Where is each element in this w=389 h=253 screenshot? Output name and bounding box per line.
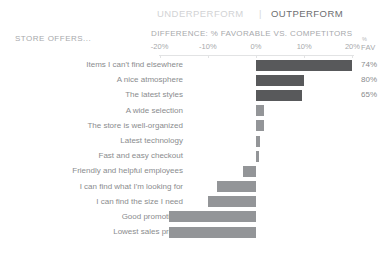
bar-negative[interactable] <box>208 196 256 207</box>
bar-positive[interactable] <box>256 75 304 86</box>
chart-row[interactable]: A wide selection <box>0 104 389 119</box>
chart-row[interactable]: Lowest sales prices <box>0 225 389 240</box>
bar-positive[interactable] <box>256 151 259 162</box>
category-label: The latest styles <box>125 90 183 99</box>
legend-underperform: UNDERPERFORM <box>157 8 244 19</box>
bar-positive[interactable] <box>256 105 264 116</box>
x-tick-1: -10% <box>199 42 217 51</box>
category-label: Latest technology <box>120 136 183 145</box>
x-tick-2: 0% <box>251 42 262 51</box>
x-axis-tick-labels: -20%-10%0%10%20% <box>0 42 389 53</box>
chart-row[interactable]: I can find the size I need <box>0 195 389 210</box>
category-label: The store is well-organized <box>87 121 183 130</box>
chart-row[interactable]: Latest technology <box>0 134 389 149</box>
chart-root: · · · · UNDERPERFORM | OUTPERFORM STORE … <box>0 0 389 253</box>
fav-value: 74% <box>361 60 377 69</box>
legend-outperform: OUTPERFORM <box>271 8 343 19</box>
performance-legend: UNDERPERFORM | OUTPERFORM <box>0 8 389 21</box>
bar-positive[interactable] <box>256 90 302 101</box>
bar-positive[interactable] <box>256 60 352 71</box>
chart-row[interactable]: I can find what I'm looking for <box>0 180 389 195</box>
chart-row[interactable]: The latest styles65% <box>0 88 389 103</box>
bar-negative[interactable] <box>243 166 256 177</box>
clipped-ghost-text: · · · · <box>148 0 166 3</box>
chart-row[interactable]: Good promotions <box>0 210 389 225</box>
bar-negative[interactable] <box>169 227 256 238</box>
x-tick-0: -20% <box>151 42 169 51</box>
category-label: A nice atmosphere <box>117 75 183 84</box>
bar-positive[interactable] <box>256 120 264 131</box>
x-tick-4: 20% <box>345 42 360 51</box>
fav-value: 80% <box>361 75 377 84</box>
category-label: Friendly and helpful employees <box>72 166 183 175</box>
chart-row[interactable]: The store is well-organized <box>0 119 389 134</box>
bar-positive[interactable] <box>256 136 260 147</box>
x-tick-3: 10% <box>297 42 312 51</box>
category-label: I can find what I'm looking for <box>80 182 183 191</box>
category-label: Fast and easy checkout <box>99 151 184 160</box>
bar-plot-area: Items I can't find elsewhere74%A nice at… <box>0 58 389 248</box>
legend-separator: | <box>259 8 261 19</box>
bar-negative[interactable] <box>217 181 256 192</box>
chart-row[interactable]: Fast and easy checkout <box>0 149 389 164</box>
chart-row[interactable]: Items I can't find elsewhere74% <box>0 58 389 73</box>
category-label: A wide selection <box>126 106 183 115</box>
bar-negative[interactable] <box>169 211 256 222</box>
chart-row[interactable]: A nice atmosphere80% <box>0 73 389 88</box>
fav-value: 65% <box>361 90 377 99</box>
category-label: I can find the size I need <box>96 197 183 206</box>
chart-row[interactable]: Friendly and helpful employees <box>0 164 389 179</box>
axis-caption: DIFFERENCE: % FAVORABLE VS. COMPETITORS <box>151 29 352 38</box>
category-label: Items I can't find elsewhere <box>86 60 183 69</box>
clipped-top-strip: · · · · <box>0 0 389 7</box>
